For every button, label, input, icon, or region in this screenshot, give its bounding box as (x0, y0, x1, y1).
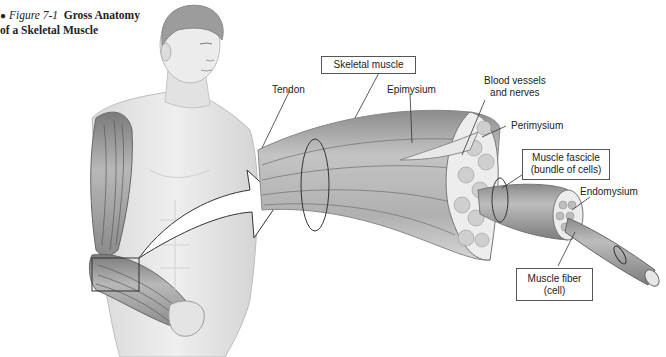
label-line: Muscle fiber (521, 273, 588, 285)
label-line: and nerves (484, 87, 546, 99)
label-line: (cell) (521, 285, 588, 297)
label-epimysium: Epimysium (387, 84, 436, 96)
label-line: Blood vessels (484, 75, 546, 87)
label-muscle-fiber: Muscle fiber (cell) (516, 268, 593, 301)
skeletal-muscle-bundle (258, 110, 500, 260)
label-text: Skeletal muscle (333, 59, 403, 70)
label-tendon: Tendon (272, 84, 305, 96)
label-endomysium: Endomysium (580, 186, 638, 198)
label-line: Muscle fascicle (527, 152, 605, 164)
label-perimysium: Perimysium (511, 120, 563, 132)
label-line: (bundle of cells) (527, 164, 605, 176)
label-skeletal-muscle: Skeletal muscle (321, 56, 416, 74)
human-figure (89, 5, 257, 357)
label-blood-vessels: Blood vessels and nerves (484, 75, 546, 99)
label-muscle-fascicle: Muscle fascicle (bundle of cells) (522, 149, 610, 180)
